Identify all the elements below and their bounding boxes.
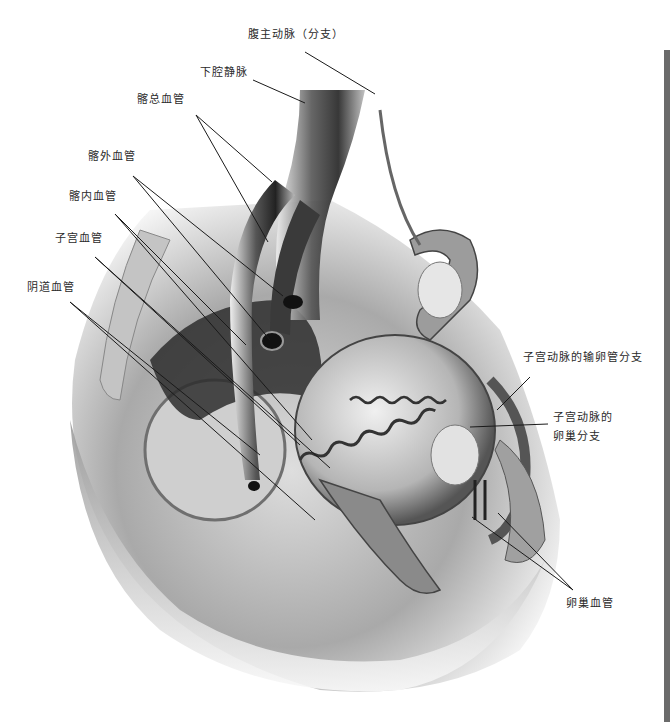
leader-aorta xyxy=(305,52,375,94)
ovary-lower xyxy=(431,425,479,485)
leader-vena-cava xyxy=(253,80,305,103)
label-uterine-artery-tubal-branch: 子宫动脉的输卵管分支 xyxy=(523,351,643,365)
ovarian-vessel-upper xyxy=(380,110,420,245)
vessel-cross-section-1 xyxy=(283,295,303,309)
label-vaginal-vessels: 阴道血管 xyxy=(27,281,75,295)
label-uterine-artery-ovarian-branch-line2: 卵巢分支 xyxy=(553,430,601,444)
label-ovarian-vessels: 卵巢血管 xyxy=(566,597,614,611)
anatomy-figure: 腹主动脉（分支） 下腔静脉 髂总血管 髂外血管 髂内血管 子宫血管 阴道血管 子… xyxy=(0,0,670,726)
label-abdominal-aorta-branch: 腹主动脉（分支） xyxy=(248,28,344,42)
label-inferior-vena-cava: 下腔静脉 xyxy=(200,66,248,80)
vessel-cross-section-2 xyxy=(261,332,283,350)
ovary-upper xyxy=(418,262,462,318)
label-external-iliac-vessels: 髂外血管 xyxy=(88,150,136,164)
label-uterine-vessels: 子宫血管 xyxy=(55,232,103,246)
label-common-iliac-vessels: 髂总血管 xyxy=(137,93,185,107)
page-edge-bar xyxy=(664,50,670,722)
label-uterine-artery-ovarian-branch-line1: 子宫动脉的 xyxy=(553,411,613,425)
leader-common-iliac-a xyxy=(196,115,272,182)
label-internal-iliac-vessels: 髂内血管 xyxy=(69,190,117,204)
vessel-cross-section-3 xyxy=(248,481,260,491)
